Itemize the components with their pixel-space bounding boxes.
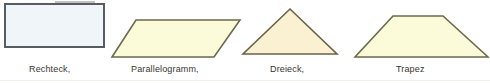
shapes-figure-page: Rechteck, Parallelogramm, Dreieck, Trape…	[0, 0, 490, 83]
caption-trapezoid: Trapez	[396, 64, 425, 75]
trapezoid-polygon	[355, 16, 488, 57]
